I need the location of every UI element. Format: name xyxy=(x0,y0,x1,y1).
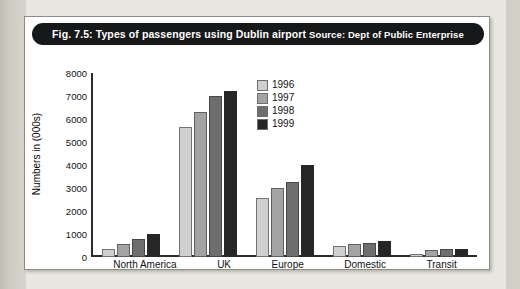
bar xyxy=(286,182,299,257)
x-category-label: UK xyxy=(217,259,231,270)
legend-item: 1999 xyxy=(257,118,294,130)
bar xyxy=(147,234,160,257)
bar xyxy=(378,241,391,257)
bar xyxy=(179,127,192,257)
bar xyxy=(102,249,115,257)
bar xyxy=(348,244,361,257)
legend-label: 1996 xyxy=(272,80,294,90)
bar xyxy=(363,243,376,257)
y-tick-label: 3000 xyxy=(53,183,87,194)
y-tick-label: 4000 xyxy=(53,160,87,171)
legend-swatch-icon xyxy=(257,106,268,117)
bar xyxy=(224,91,237,257)
y-tick-label: 8000 xyxy=(53,68,87,79)
figure-title-main: Fig. 7.5: Types of passengers using Dubl… xyxy=(52,28,306,40)
bar xyxy=(256,198,269,257)
legend-label: 1999 xyxy=(272,119,294,129)
legend-item: 1998 xyxy=(257,105,294,117)
bar xyxy=(132,239,145,257)
bar-group xyxy=(179,73,237,257)
bar xyxy=(271,188,284,257)
figure-title-source: Source: Dept of Public Enterprise xyxy=(309,29,464,40)
legend-label: 1998 xyxy=(272,106,294,116)
x-category-label: Transit xyxy=(427,259,457,270)
y-tick-label: 0 xyxy=(53,252,87,263)
bar-group xyxy=(410,73,468,257)
y-axis-tick-labels: 800070006000500040003000200010000 xyxy=(53,47,87,237)
x-axis-category-labels: North AmericaUKEuropeDomesticTransit xyxy=(93,259,477,270)
bar-group xyxy=(102,73,160,257)
bar xyxy=(425,250,438,257)
bar xyxy=(194,112,207,257)
y-tick-label: 5000 xyxy=(53,137,87,148)
x-category-label: Europe xyxy=(272,259,304,270)
y-tick-label: 6000 xyxy=(53,114,87,125)
bar xyxy=(117,244,130,257)
legend-swatch-icon xyxy=(257,80,268,91)
y-tick-label: 1000 xyxy=(53,229,87,240)
figure-frame: Fig. 7.5: Types of passengers using Dubl… xyxy=(24,16,490,270)
legend-label: 1997 xyxy=(272,93,294,103)
legend-swatch-icon xyxy=(257,119,268,130)
y-axis-label: Numbers in (000s) xyxy=(31,99,42,209)
figure-title: Fig. 7.5: Types of passengers using Dubl… xyxy=(52,28,464,40)
chart-legend: 1996199719981999 xyxy=(257,79,294,130)
bar xyxy=(410,254,423,257)
bar xyxy=(455,249,468,257)
bar xyxy=(440,249,453,257)
x-category-label: North America xyxy=(113,259,176,270)
bar-group xyxy=(333,73,391,257)
figure-title-bar: Fig. 7.5: Types of passengers using Dubl… xyxy=(32,23,484,45)
y-tick-label: 7000 xyxy=(53,91,87,102)
x-category-label: Domestic xyxy=(344,259,386,270)
legend-item: 1997 xyxy=(257,92,294,104)
bar xyxy=(333,246,346,258)
legend-swatch-icon xyxy=(257,93,268,104)
bar xyxy=(301,165,314,257)
legend-item: 1996 xyxy=(257,79,294,91)
y-tick-label: 2000 xyxy=(53,206,87,217)
bar xyxy=(209,96,222,257)
plot-area: Numbers in (000s) 8000700060005000400030… xyxy=(25,47,489,269)
